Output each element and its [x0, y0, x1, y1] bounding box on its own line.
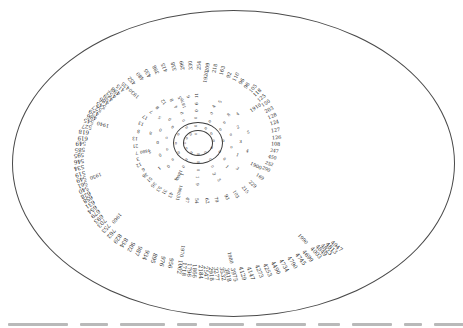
year-value: 2	[236, 125, 240, 130]
year-value: 43	[167, 191, 173, 198]
decade-label-1960: 1960	[110, 212, 122, 224]
year-value: 0	[195, 109, 199, 112]
year-value: 4	[212, 105, 217, 109]
year-value: 0	[166, 164, 171, 169]
decade-label-1910: 1910	[250, 103, 263, 114]
year-value: 21	[132, 143, 138, 148]
year-value: 0	[159, 127, 163, 132]
year-value: 0	[182, 118, 186, 122]
year-value: 0	[222, 158, 226, 162]
year-value: 0	[195, 161, 199, 163]
figure-canvas: 0000000000000000000000000000000000000000…	[0, 0, 463, 328]
year-value: 9	[195, 183, 199, 186]
caption-text-top-fragment	[120, 323, 165, 326]
year-value: 338	[170, 61, 177, 71]
year-value: 54	[194, 198, 199, 204]
year-value: 4	[174, 105, 179, 109]
year-value: 8	[156, 104, 161, 109]
caption-fragment	[0, 321, 463, 328]
year-value: 215	[240, 186, 249, 195]
year-value: 6	[140, 166, 145, 171]
year-value: 6	[187, 95, 192, 98]
year-value: 0	[181, 165, 185, 169]
decade-label-1990: 1990	[296, 234, 308, 246]
year-value: 895	[149, 252, 157, 264]
year-value: 1	[195, 176, 199, 179]
year-value: 0	[180, 111, 185, 115]
year-value: 0	[209, 166, 213, 170]
caption-text-top-fragment	[8, 323, 68, 326]
decade-label-1950: 1950	[89, 170, 102, 179]
decade-label-1860: 1860	[175, 169, 183, 180]
decade-label-1980: 1980	[225, 252, 232, 265]
year-value: 0	[222, 140, 224, 144]
year-value: 549	[76, 140, 86, 146]
year-value: 3	[235, 166, 240, 171]
caption-text-top-fragment	[177, 323, 197, 326]
year-value: 247	[270, 148, 279, 154]
caption-text-top-fragment	[256, 323, 306, 326]
year-value: 1	[157, 165, 162, 170]
caption-text-top-fragment	[352, 323, 392, 326]
year-value: 79	[213, 196, 219, 203]
year-value: 1	[235, 153, 239, 158]
caption-text-top-fragment	[434, 323, 463, 326]
year-value: 7	[135, 150, 139, 155]
decade-label-1970: 1970	[178, 245, 184, 258]
year-value: 169	[255, 173, 265, 182]
year-value: 5	[158, 115, 163, 120]
year-value: 5	[218, 100, 223, 104]
year-value: 0	[165, 146, 168, 150]
year-value: 0	[195, 169, 199, 171]
year-value: 976	[158, 255, 166, 266]
decade-label-1920: 1920	[203, 70, 209, 83]
year-value: 0	[195, 133, 198, 135]
caption-text-top-fragment	[80, 323, 108, 326]
year-value: 0	[211, 113, 215, 117]
spiral-plot: 0000000000000000000000000000000000000000…	[0, 0, 463, 328]
year-value: 0	[217, 151, 221, 155]
year-value: 934	[141, 249, 150, 261]
decade-label-1940: 1940	[96, 120, 109, 127]
year-value: 5	[246, 130, 249, 135]
year-value: 8	[149, 131, 152, 136]
year-value: 127	[271, 127, 281, 134]
year-value: 0	[166, 134, 169, 138]
spiral-center-circle-2	[173, 122, 223, 164]
year-value: 0	[209, 120, 213, 124]
year-value: 12	[161, 98, 168, 105]
decade-label-1930: 1930	[128, 87, 140, 99]
caption-text-top-fragment	[404, 323, 422, 326]
year-value: 93	[222, 194, 228, 201]
year-value: 290	[261, 166, 271, 174]
year-value: 3	[239, 140, 242, 144]
year-value: 0	[213, 140, 215, 144]
year-value: 8	[226, 113, 231, 118]
year-value: 415	[161, 62, 169, 72]
year-value: 8	[170, 97, 175, 102]
year-value: 0	[230, 133, 233, 137]
year-value: 8	[137, 128, 141, 133]
year-value: 229	[248, 180, 257, 189]
year-value: 1	[225, 165, 230, 170]
year-value: 330	[188, 60, 194, 70]
year-value: 11	[195, 93, 199, 98]
year-value: 13	[133, 135, 139, 140]
year-value: 0	[174, 140, 176, 144]
year-value: 0	[229, 146, 232, 150]
year-value: 0	[195, 153, 199, 155]
year-value: 0	[207, 158, 211, 162]
year-value: 0	[167, 117, 172, 122]
year-value: 0	[195, 117, 199, 119]
year-value: 108	[271, 142, 280, 147]
year-value: 4	[236, 112, 241, 117]
caption-text-top-fragment	[209, 323, 244, 326]
year-value: 7	[150, 109, 155, 114]
year-value: 956	[167, 258, 174, 269]
year-value: 0	[170, 156, 174, 160]
year-value: 47	[184, 196, 189, 202]
year-value: 299	[179, 60, 185, 70]
decade-label-1890: 1890	[176, 184, 183, 195]
year-value: 0	[172, 124, 176, 128]
year-value: 0	[195, 125, 199, 127]
